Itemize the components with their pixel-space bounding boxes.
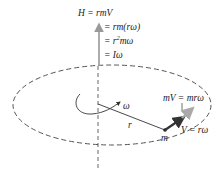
omega-label: ω — [123, 101, 130, 111]
equation-h: H = rmV — [77, 8, 114, 18]
equation-line-3: = r2mω — [104, 34, 134, 46]
equation-line-3-prefix: = r — [104, 36, 117, 46]
velocity-label: V = rω — [181, 125, 208, 135]
equation-line-2: = rm(rω) — [104, 22, 140, 33]
momentum-label: mV = mrω — [163, 93, 204, 103]
equation-line-3-suffix: mω — [120, 36, 134, 46]
radius-label: r — [128, 120, 132, 130]
momentum-arrow — [182, 108, 193, 118]
equation-line-4: = Iω — [104, 50, 123, 60]
angular-momentum-diagram: H = rmV = rm(rω) = r2mω = Iω ω r m mV = … — [0, 0, 222, 175]
mass-label: m — [161, 133, 168, 143]
